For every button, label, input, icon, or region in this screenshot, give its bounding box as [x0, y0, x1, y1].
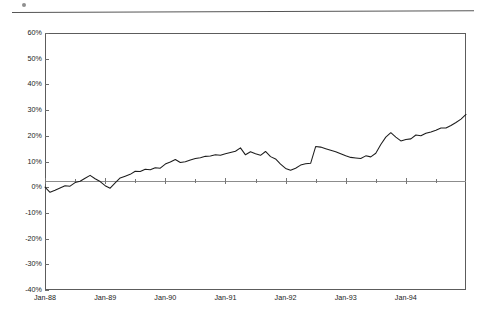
- series-line-chart: [0, 0, 486, 316]
- chart-page: 60%50%40%30%20%10%0%-10%-20%-30%-40% Jan…: [0, 0, 486, 316]
- series-line-path: [45, 114, 466, 192]
